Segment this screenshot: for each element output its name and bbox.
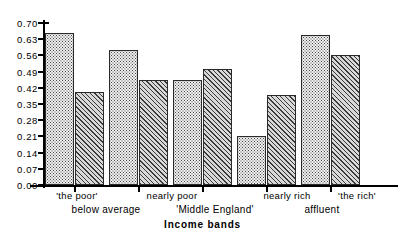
y-axis-tick-label: 0.07 (17, 163, 38, 174)
plot-area (44, 23, 392, 185)
x-axis-label: nearly poor (147, 190, 198, 201)
x-axis-label: affluent (304, 204, 339, 215)
y-axis-tick-label: 0.14 (17, 147, 38, 158)
x-axis-tick-mark (330, 185, 332, 192)
y-axis-tick-label: 0.21 (17, 131, 38, 142)
bar-dotted-4 (173, 80, 202, 185)
x-axis-tick-mark (138, 185, 140, 192)
bar-dotted-0 (45, 33, 74, 185)
x-axis-label: 'the poor' (56, 190, 98, 201)
bar-dotted-2 (109, 50, 138, 185)
x-axis-tick-mark (202, 185, 204, 192)
bar-diagonal-hatch-3 (139, 80, 168, 185)
y-axis-tick-label: 0.70 (17, 18, 38, 29)
bar-diagonal-hatch-9 (331, 55, 360, 185)
bar-dotted-8 (301, 35, 330, 185)
x-axis-title: Income bands (0, 219, 405, 230)
bar-diagonal-hatch-1 (75, 92, 104, 185)
bar-dotted-6 (237, 136, 266, 185)
y-axis-tick-label: 0.56 (17, 50, 38, 61)
x-axis-tick-mark (74, 185, 76, 192)
y-axis-tick-label: 0.63 (17, 34, 38, 45)
y-axis-tick-label: 0.28 (17, 115, 38, 126)
x-axis-tick-mark (266, 185, 268, 192)
x-axis-line (30, 185, 398, 187)
y-axis-tick-label: 0.49 (17, 66, 38, 77)
y-axis-tick-label: 0.42 (17, 82, 38, 93)
x-axis-label: 'the rich' (338, 190, 376, 201)
x-axis-label: below average (72, 204, 141, 215)
x-axis-label: nearly rich (263, 190, 310, 201)
y-axis-tick-label: 0.35 (17, 99, 38, 110)
bar-diagonal-hatch-7 (267, 95, 296, 185)
bar-diagonal-hatch-5 (203, 69, 232, 185)
x-axis-label: 'Middle England' (176, 204, 254, 215)
bar-chart: 0.700.630.560.490.420.350.280.210.140.07… (0, 0, 405, 251)
